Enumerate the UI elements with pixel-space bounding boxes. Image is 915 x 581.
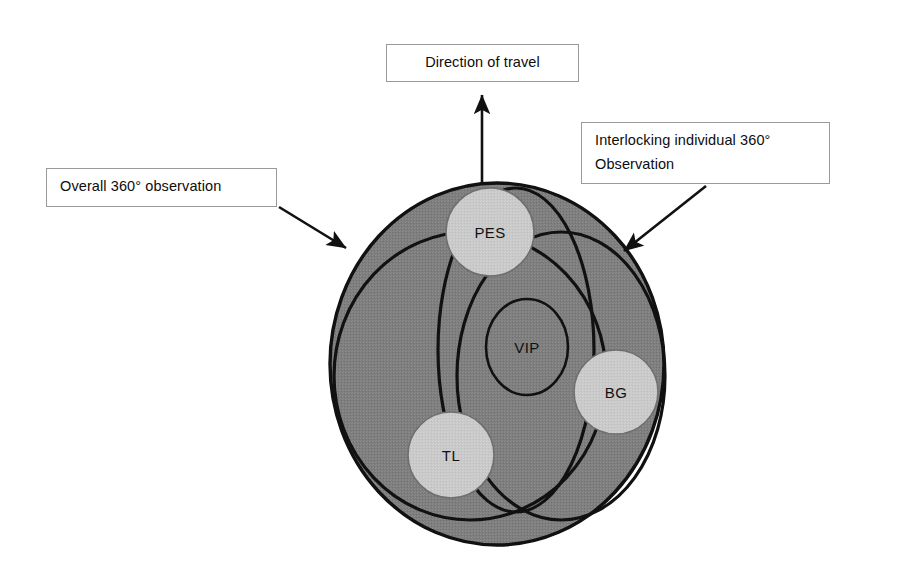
bg-label: BG (605, 384, 627, 401)
pes-label: PES (474, 224, 505, 241)
callout-interlocking-label-line1: Interlocking individual 360° (595, 130, 820, 151)
node-pes: PES (446, 188, 534, 276)
callout-overall-label: Overall 360° observation (60, 176, 221, 197)
callout-interlocking-observation: Interlocking individual 360° Observation (581, 122, 830, 184)
vip-label: VIP (514, 339, 539, 356)
node-bg: BG (574, 350, 658, 434)
callout-direction-label: Direction of travel (425, 52, 540, 73)
callout-direction-of-travel: Direction of travel (386, 44, 579, 82)
callout-overall-observation: Overall 360° observation (46, 168, 277, 207)
callout-interlocking-label-line2: Observation (595, 154, 820, 175)
arrow-down-right-icon (279, 207, 346, 248)
tl-label: TL (442, 447, 460, 464)
arrow-down-left-icon (624, 186, 706, 251)
node-tl: TL (408, 412, 494, 498)
formation-diagram: VIP PES BG TL (0, 0, 915, 581)
